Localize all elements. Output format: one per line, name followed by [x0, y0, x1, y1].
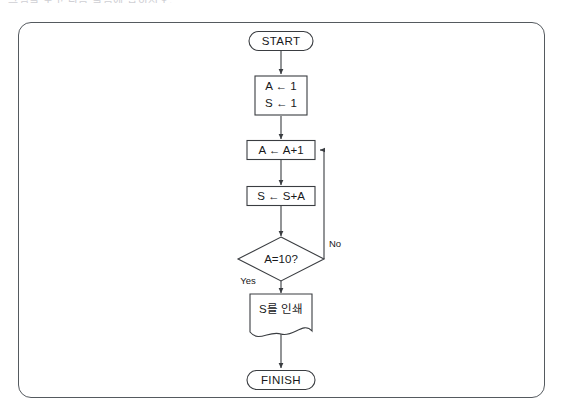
edge-decision-no-loop-to-incr [320, 150, 324, 259]
node-finish-label: FINISH [261, 374, 301, 386]
node-start-label: START [262, 35, 301, 47]
node-decision-label: A=10? [264, 253, 298, 265]
node-initialize-line1: A ← 1 [265, 80, 296, 92]
node-initialize-line2: S ← 1 [265, 97, 297, 109]
node-print-s-label: S를 인쇄 [259, 303, 303, 315]
node-initialize[interactable]: A ← 1 S ← 1 [255, 76, 307, 115]
node-start[interactable]: START [249, 32, 313, 51]
flowchart-canvas: START A ← 1 S ← 1 A ← A+1 S ← S+A A=10? … [0, 0, 562, 416]
node-print-s[interactable]: S를 인쇄 [250, 294, 312, 337]
node-increment-a-label: A ← A+1 [258, 144, 303, 156]
node-accumulate-s-label: S ← S+A [257, 190, 305, 202]
node-finish[interactable]: FINISH [247, 371, 315, 390]
edge-label-yes: Yes [240, 275, 256, 286]
node-increment-a[interactable]: A ← A+1 [247, 141, 315, 160]
edge-label-no: No [329, 238, 341, 249]
flowchart-page: 그림을 보고 다음 물음에 답하시오. [0, 0, 562, 416]
node-accumulate-s[interactable]: S ← S+A [247, 187, 315, 206]
